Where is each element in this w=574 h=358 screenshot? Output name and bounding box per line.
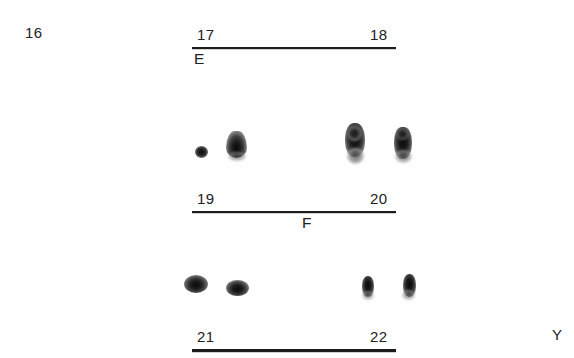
chromosome-17b-shadow	[228, 152, 246, 161]
pair-number-21: 21	[197, 329, 214, 345]
group-label-e: E	[194, 51, 205, 67]
chromosome-18a-tail	[347, 148, 364, 164]
pair-number-22: 22	[370, 329, 387, 345]
rule-row-g	[192, 349, 396, 352]
chromosome-18b-tail	[395, 150, 412, 163]
chromosome-18a-arm	[347, 126, 362, 141]
rule-row-f	[192, 211, 396, 213]
chromosome-20b-tail	[402, 290, 415, 300]
chromosome-19b	[226, 280, 249, 296]
pair-number-18: 18	[370, 27, 387, 43]
chromosome-17a	[195, 146, 208, 158]
rule-row-e	[192, 47, 396, 49]
chromosome-18b-arm	[396, 128, 409, 140]
chromosome-20a-tail	[362, 291, 374, 300]
pair-number-19: 19	[197, 191, 214, 207]
karyotype-figure: 16 17 18 E 19 20 F 21 22 Y	[0, 0, 574, 358]
pair-number-17: 17	[197, 27, 214, 43]
margin-label-16: 16	[25, 25, 42, 41]
group-label-f: F	[302, 215, 312, 231]
chromosome-19a	[184, 275, 208, 293]
pair-number-20: 20	[370, 191, 387, 207]
margin-label-y: Y	[552, 327, 562, 343]
